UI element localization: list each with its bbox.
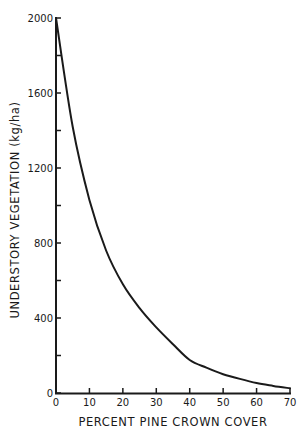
x-tick-label: 20 — [116, 397, 129, 408]
data-curve — [56, 18, 290, 388]
x-tick-label: 60 — [250, 397, 263, 408]
x-axis-title: PERCENT PINE CROWN COVER — [78, 415, 267, 429]
y-tick-label: 800 — [34, 238, 53, 249]
x-axis-ticks: 010203040506070 — [53, 388, 297, 408]
x-tick-label: 0 — [53, 397, 59, 408]
x-tick-label: 70 — [284, 397, 297, 408]
x-tick-label: 30 — [150, 397, 163, 408]
y-tick-label: 2000 — [28, 13, 53, 24]
chart: 0400800120016002000 010203040506070 PERC… — [0, 0, 302, 435]
y-tick-label: 1200 — [28, 163, 53, 174]
x-tick-label: 50 — [217, 397, 230, 408]
x-tick-label: 40 — [183, 397, 196, 408]
y-axis-title: UNDERSTORY VEGETATION (kg/ha) — [8, 101, 22, 318]
y-tick-label: 1600 — [28, 88, 53, 99]
x-tick-label: 10 — [83, 397, 96, 408]
y-tick-label: 400 — [34, 313, 53, 324]
